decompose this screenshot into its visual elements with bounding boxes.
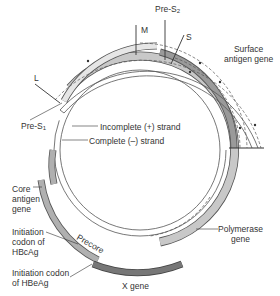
l-label: L	[34, 73, 39, 83]
complete-strand-label: Complete (–) strand	[89, 136, 164, 146]
l-marker	[35, 84, 60, 103]
pre-s1-label: Pre-S1	[21, 121, 46, 133]
pre-s1-leader	[30, 103, 62, 120]
hbcag-initiation-label: Initiationcodon ofHBcAg	[12, 227, 45, 257]
surface-antigen-gene-label: Surfaceantigen gene	[224, 44, 273, 64]
core-antigen-gene-label: Coreantigengene	[12, 184, 40, 214]
hbeag-initiation-label: Initiation codonof HBeAg	[12, 268, 69, 288]
incomplete-strand-label: Incomplete (+) strand	[100, 122, 181, 132]
complete-strand	[60, 70, 220, 230]
hbeag-leader	[70, 264, 92, 277]
s-label: S	[186, 32, 192, 42]
x-gene-label: X gene	[122, 281, 149, 291]
m-label: M	[141, 25, 148, 35]
polymerase-gene-label: Polymerasegene	[218, 224, 263, 244]
pre-s2-label: Pre-S2	[155, 4, 180, 16]
